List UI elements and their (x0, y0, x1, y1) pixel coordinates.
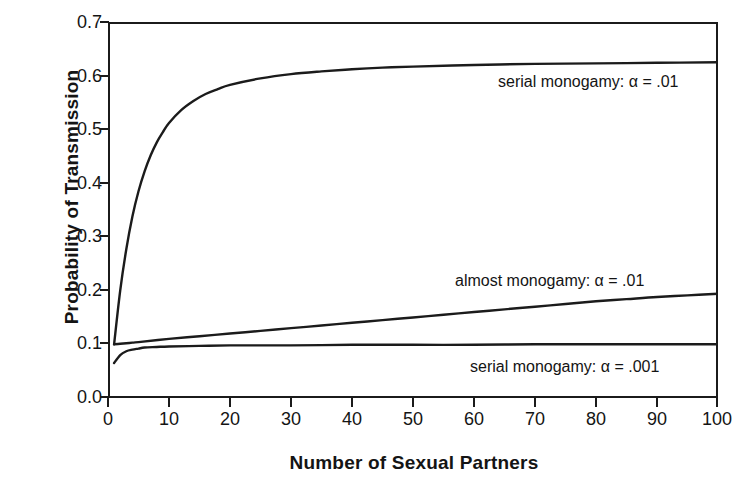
x-tick-mark-10 (168, 398, 170, 407)
y-tick-label-0.0: 0.0 (46, 387, 102, 408)
x-tick-mark-50 (412, 398, 414, 407)
x-tick-mark-0 (107, 398, 109, 407)
y-tick-label-0.7: 0.7 (46, 12, 102, 33)
x-tick-label-10: 10 (139, 409, 199, 430)
x-tick-label-30: 30 (261, 409, 321, 430)
x-tick-label-50: 50 (383, 409, 443, 430)
x-tick-label-80: 80 (566, 409, 626, 430)
y-tick-label-0.3: 0.3 (46, 226, 102, 247)
annotation-serial-monogamy-alpha-001: serial monogamy: α = .001 (470, 358, 659, 376)
x-tick-mark-80 (595, 398, 597, 407)
x-tick-mark-40 (351, 398, 353, 407)
x-tick-label-0: 0 (78, 409, 138, 430)
x-tick-label-60: 60 (444, 409, 504, 430)
y-tick-label-0.6: 0.6 (46, 66, 102, 87)
x-tick-mark-70 (534, 398, 536, 407)
x-tick-mark-90 (656, 398, 658, 407)
annotation-serial-monogamy-alpha-01: serial monogamy: α = .01 (498, 73, 678, 91)
y-tick-label-0.4: 0.4 (46, 173, 102, 194)
x-tick-mark-100 (716, 398, 718, 407)
curve-almost-monogamy-alpha-01 (114, 294, 718, 345)
y-tick-label-0.5: 0.5 (46, 119, 102, 140)
x-axis-title: Number of Sexual Partners (108, 452, 720, 474)
x-tick-label-100: 100 (687, 409, 747, 430)
chart-figure: Probability of Transmission 0.7 0.6 0.5 … (0, 0, 756, 492)
x-tick-mark-20 (229, 398, 231, 407)
y-tick-label-0.2: 0.2 (46, 280, 102, 301)
curve-serial-monogamy-alpha-01 (114, 62, 718, 344)
x-tick-mark-60 (473, 398, 475, 407)
annotation-almost-monogamy-alpha-01: almost monogamy: α = .01 (455, 272, 644, 290)
x-tick-label-20: 20 (200, 409, 260, 430)
x-tick-mark-30 (290, 398, 292, 407)
x-tick-label-90: 90 (627, 409, 687, 430)
y-tick-label-0.1: 0.1 (46, 333, 102, 354)
x-tick-label-70: 70 (505, 409, 565, 430)
x-tick-label-40: 40 (322, 409, 382, 430)
